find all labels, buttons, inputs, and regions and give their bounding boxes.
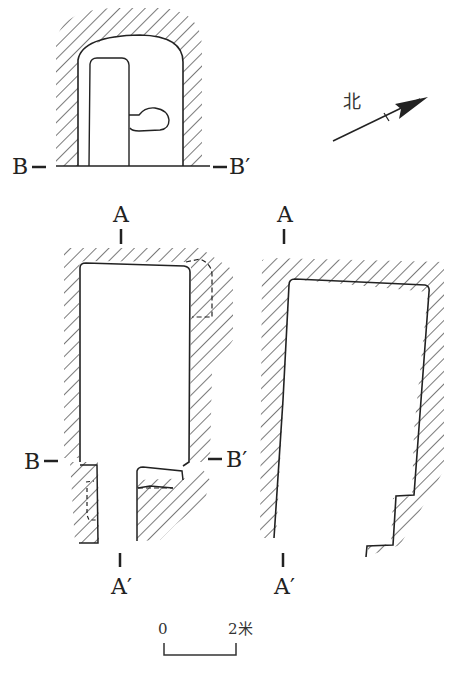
label-a-prime-plan: A′	[110, 574, 132, 599]
label-b-prime-plan-right: B′	[226, 447, 247, 472]
scale-end-label: 2米	[228, 620, 253, 638]
tomb-diagram: B B′ 北 A B	[0, 0, 450, 684]
north-arrow-group: 北	[333, 91, 428, 141]
scale-bar: 0 2米	[158, 620, 253, 655]
north-label: 北	[343, 91, 361, 112]
label-b-plan-left: B	[24, 449, 40, 474]
plan-view: A B B′ A′	[24, 202, 247, 599]
top-section-view: B B′	[12, 8, 250, 179]
label-b-top-left: B	[12, 154, 28, 179]
label-a-profile: A	[276, 202, 294, 227]
scale-start-label: 0	[158, 620, 168, 638]
profile-view: A A′	[260, 202, 444, 599]
label-b-prime-top-right: B′	[229, 154, 250, 179]
label-a-prime-profile: A′	[273, 574, 295, 599]
label-a-plan: A	[112, 202, 130, 227]
